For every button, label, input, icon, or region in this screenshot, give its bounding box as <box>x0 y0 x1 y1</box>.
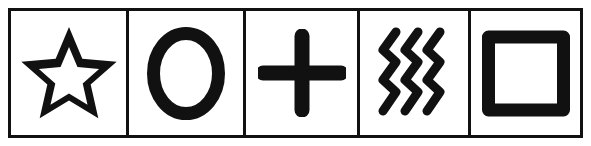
square-icon <box>481 30 571 117</box>
symbol-cell-circle[interactable]: Circle <box>129 11 246 135</box>
figure-canvas: Star Circle Cross <box>0 0 591 146</box>
waves-icon <box>378 27 450 119</box>
plus-icon <box>258 29 346 117</box>
symbol-cell-waves[interactable]: Waves <box>360 11 471 135</box>
star-icon <box>20 24 118 122</box>
symbol-row: Star Circle Cross <box>8 8 583 138</box>
symbol-cell-square[interactable]: Square <box>471 11 580 135</box>
symbol-cell-star[interactable]: Star <box>11 11 129 135</box>
symbol-cell-cross[interactable]: Cross <box>246 11 360 135</box>
circle-icon <box>146 26 226 121</box>
